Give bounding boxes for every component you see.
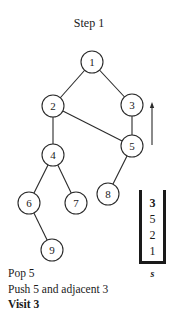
svg-text:1: 1 — [89, 56, 95, 68]
graph-nodes: 123456789 — [18, 51, 143, 261]
graph-node-9: 9 — [41, 239, 63, 261]
stack-item: 2 — [150, 227, 156, 243]
step-line-visit: Visit 3 — [8, 297, 108, 313]
graph-node-7: 7 — [65, 192, 87, 214]
graph-node-5: 5 — [121, 135, 143, 157]
svg-text:9: 9 — [49, 244, 55, 256]
stack-container: 3521 — [139, 190, 166, 264]
svg-text:4: 4 — [50, 149, 56, 161]
svg-text:2: 2 — [50, 100, 56, 112]
stack-label: s — [139, 268, 166, 279]
step-line-push: Push 5 and adjacent 3 — [8, 282, 108, 298]
svg-text:3: 3 — [129, 99, 135, 111]
stack-item: 3 — [150, 195, 156, 211]
graph-node-1: 1 — [81, 51, 103, 73]
graph-node-6: 6 — [18, 192, 40, 214]
traversal-arrow — [150, 102, 154, 145]
graph-node-2: 2 — [42, 95, 64, 117]
graph-node-8: 8 — [97, 183, 119, 205]
stack-item: 5 — [150, 211, 156, 227]
edge-2-5 — [53, 106, 132, 146]
svg-text:7: 7 — [73, 197, 79, 209]
stack-items: 3521 — [142, 195, 163, 259]
step-description: Pop 5 Push 5 and adjacent 3 Visit 3 — [8, 266, 108, 313]
graph-node-4: 4 — [42, 144, 64, 166]
step-line-pop: Pop 5 — [8, 266, 108, 282]
svg-text:6: 6 — [26, 197, 32, 209]
stack-item: 1 — [150, 243, 156, 259]
svg-text:5: 5 — [129, 140, 135, 152]
svg-text:8: 8 — [105, 188, 111, 200]
graph-node-3: 3 — [121, 94, 143, 116]
